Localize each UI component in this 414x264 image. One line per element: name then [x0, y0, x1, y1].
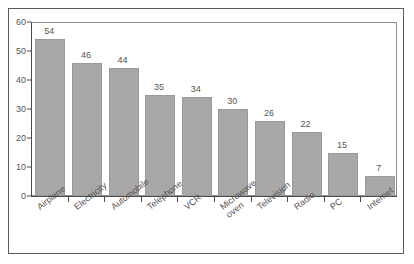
x-tick-mark [68, 197, 69, 202]
bar [145, 95, 175, 197]
x-tick-mark [360, 197, 361, 202]
bar [328, 153, 358, 197]
bar-value-label: 54 [29, 27, 69, 36]
bar [292, 132, 322, 196]
x-tick-mark [104, 197, 105, 202]
y-tick-label-20: 20 [0, 134, 26, 143]
bar-value-label: 34 [176, 85, 216, 94]
bar-value-label: 35 [139, 83, 179, 92]
bar-value-label: 26 [249, 109, 289, 118]
x-axis-label-line: PC [328, 196, 344, 212]
y-tick-mark-30 [27, 109, 31, 110]
y-tick-label-30: 30 [0, 105, 26, 114]
y-tick-label-60: 60 [0, 18, 26, 27]
bar-value-label: 15 [322, 141, 362, 150]
bar-value-label: 22 [286, 120, 326, 129]
y-tick-mark-0 [27, 196, 31, 197]
bar [35, 39, 65, 196]
y-tick-mark-60 [27, 22, 31, 23]
y-tick-mark-20 [27, 138, 31, 139]
y-tick-label-10: 10 [0, 163, 26, 172]
bar-value-label: 30 [212, 97, 252, 106]
y-tick-label-0: 0 [0, 192, 26, 201]
x-tick-mark [177, 197, 178, 202]
bar-value-label: 7 [359, 164, 399, 173]
y-tick-label-50: 50 [0, 47, 26, 56]
y-tick-mark-10 [27, 167, 31, 168]
x-axis-label-pc: PC [328, 196, 344, 212]
y-tick-label-40: 40 [0, 76, 26, 85]
bars-container [32, 22, 397, 196]
bar-value-label: 46 [66, 51, 106, 60]
bar [72, 63, 102, 196]
x-tick-mark [214, 197, 215, 202]
x-tick-mark [324, 197, 325, 202]
y-tick-mark-50 [27, 51, 31, 52]
bar [109, 68, 139, 196]
bar-chart: 0102030405060 5446443534302622157 Airpla… [0, 0, 414, 264]
y-tick-mark-40 [27, 80, 31, 81]
x-tick-mark [287, 197, 288, 202]
bar [182, 97, 212, 196]
x-tick-mark [141, 197, 142, 202]
bar-value-label: 44 [103, 56, 143, 65]
